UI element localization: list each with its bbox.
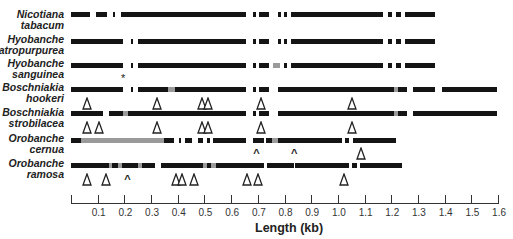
sequence-segment	[177, 63, 246, 68]
sequence-segment	[207, 138, 209, 143]
axis-tick	[178, 195, 179, 204]
taxon-label: Hyobanchesanguinea	[7, 58, 64, 80]
sequence-segment	[179, 138, 181, 143]
insertion-triangle-icon	[82, 120, 92, 133]
sequence-segment	[398, 111, 407, 116]
sequence-segment	[259, 63, 269, 68]
sequence-segment	[142, 163, 155, 168]
x-axis-label: Length (kb)	[255, 221, 323, 235]
sequence-segment	[158, 12, 247, 17]
sequence-segment	[405, 12, 434, 17]
sequence-segment	[353, 138, 395, 143]
sequence-segment	[413, 111, 497, 116]
sequence-segment	[122, 163, 138, 168]
axis-tick	[71, 195, 72, 204]
taxon-species: tabacum	[17, 20, 64, 31]
axis-tick-label: 1.3	[412, 207, 426, 218]
axis-tick	[311, 195, 312, 204]
insertion-triangle-icon	[347, 120, 357, 133]
taxon-species: cernua	[9, 144, 64, 155]
insertion-triangle-icon	[203, 96, 213, 109]
sequence-segment	[278, 39, 281, 44]
taxon-label: Boschniakiastrobilacea	[2, 107, 64, 129]
deletion-caret-icon: ^	[124, 174, 130, 184]
sequence-segment	[413, 87, 435, 92]
sequence-segment	[253, 138, 264, 143]
taxon-species: strobilacea	[2, 118, 64, 129]
insertion-triangle-icon	[101, 172, 111, 185]
sequence-segment	[388, 63, 392, 68]
sequence-segment	[284, 39, 287, 44]
sequence-segment	[113, 12, 115, 17]
sequence-segment	[278, 111, 348, 116]
sequence-segment	[175, 87, 246, 92]
sequence-segment	[71, 39, 123, 44]
sequence-segment	[296, 63, 383, 68]
sequence-segment	[259, 12, 269, 17]
deletion-caret-icon: ^	[253, 148, 259, 158]
sequence-segment	[396, 12, 401, 17]
sequence-segment	[348, 87, 393, 92]
insertion-triangle-icon	[256, 120, 266, 133]
axis-tick-label: 0.3	[145, 207, 159, 218]
insertion-triangle-icon	[177, 172, 187, 185]
axis-tick	[151, 195, 152, 204]
taxon-label: Hyobancheatropurpurea	[0, 34, 64, 56]
insertion-triangle-icon	[256, 96, 266, 109]
axis-tick	[391, 195, 392, 204]
axis-tick-label: 1.2	[385, 207, 399, 218]
insertion-triangle-icon	[347, 96, 357, 109]
sequence-segment	[296, 39, 383, 44]
taxon-species: ramosa	[9, 169, 64, 180]
sequence-segment	[253, 39, 256, 44]
insertion-triangle-icon	[152, 96, 162, 109]
sequence-segment	[388, 39, 392, 44]
axis-tick	[258, 195, 259, 204]
deletion-caret-icon: ^	[291, 148, 297, 158]
axis-tick-label: 1.0	[332, 207, 346, 218]
sequence-segment	[138, 87, 168, 92]
axis-tick-label: 1.1	[359, 207, 373, 218]
sequence-segment	[388, 12, 392, 17]
sequence-segment	[253, 87, 256, 92]
sequence-segment	[405, 63, 434, 68]
axis-tick-label: 0.9	[305, 207, 319, 218]
sequence-segment	[71, 163, 109, 168]
sequence-segment	[109, 111, 123, 116]
axis-tick-label: 1.5	[465, 207, 479, 218]
axis-tick	[98, 195, 99, 204]
sequence-segment	[128, 111, 246, 116]
taxon-species: atropurpurea	[0, 45, 64, 56]
sequence-segment	[284, 12, 287, 17]
axis-tick-label: 0.7	[252, 207, 266, 218]
taxon-label: Orobanchecernua	[9, 133, 64, 155]
sequence-segment	[185, 138, 193, 143]
sequence-segment	[161, 163, 203, 168]
sequence-segment	[278, 138, 342, 143]
sequence-segment	[259, 39, 269, 44]
sequence-segment	[259, 87, 269, 92]
sequence-segment	[71, 63, 123, 68]
taxon-label: Nicotianatabacum	[17, 9, 64, 31]
insertion-triangle-icon	[253, 172, 263, 185]
taxon-species: sanguinea	[7, 69, 64, 80]
sequence-segment	[352, 163, 356, 168]
sequence-segment	[284, 63, 287, 68]
insertion-triangle-icon	[82, 172, 92, 185]
sequence-segment	[131, 87, 133, 92]
axis-tick-label: 1.6	[492, 207, 506, 218]
sequence-segment	[164, 138, 174, 143]
axis-tick	[124, 195, 125, 204]
gene-alignment-diagram: NicotianatabacumHyobancheatropurpureaHyo…	[0, 0, 513, 239]
gray-segment	[81, 138, 164, 143]
sequence-segment	[71, 12, 90, 17]
axis-tick	[445, 195, 446, 204]
sequence-segment	[278, 87, 348, 92]
axis-tick-label: 0.6	[225, 207, 239, 218]
axis-tick	[285, 195, 286, 204]
sequence-segment	[71, 138, 81, 143]
insertion-triangle-icon	[189, 172, 199, 185]
sequence-segment	[348, 111, 393, 116]
insertion-triangle-icon	[94, 120, 104, 133]
sequence-segment	[360, 163, 402, 168]
